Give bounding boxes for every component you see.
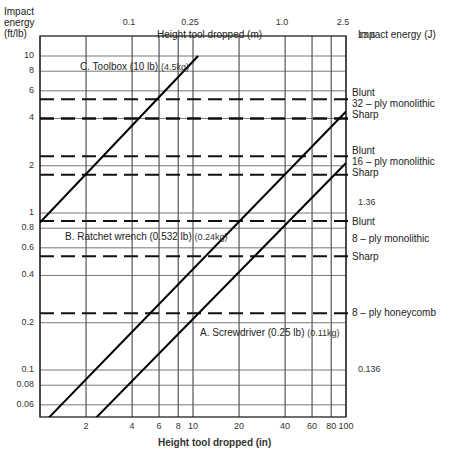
y-axis-title-line3: (ft/lb) <box>4 28 27 39</box>
series-c-label: C. Toolbox (10 lb) (4.5kg) <box>80 61 189 73</box>
y-tick-label: 1 <box>2 207 34 217</box>
x-top-tick-label: 1.0 <box>276 17 289 27</box>
y-tick-label: 0.1 <box>2 364 34 374</box>
x-tick-label: 10 <box>188 421 198 431</box>
y-tick-label: 2 <box>2 160 34 170</box>
series-a-label: A. Screwdriver (0.25 lb) (0.11kg) <box>200 327 340 339</box>
x-tick-label: 80 <box>326 421 336 431</box>
y-tick-label: 10 <box>2 50 34 60</box>
y-tick-label: 0.6 <box>2 242 34 252</box>
series-line <box>92 163 346 421</box>
label-16ply: 16 – ply monolithic <box>352 156 435 167</box>
y-axis-title-line2: energy <box>4 17 35 28</box>
y-tick-label: 6 <box>2 85 34 95</box>
y-tick-label: 0.4 <box>2 269 34 279</box>
x-tick-label: 60 <box>307 421 317 431</box>
series-line <box>45 112 346 422</box>
y-tick-label: 8 <box>2 65 34 75</box>
y-right-tick-label: 0.136 <box>358 364 381 374</box>
series-line <box>40 56 198 222</box>
label-8ply-honeycomb: 8 – ply honeycomb <box>352 307 436 318</box>
x-top-tick-label: 0.1 <box>123 17 136 27</box>
label-32ply-blunt: Blunt <box>352 87 375 98</box>
series-b-label: B. Ratchet wrench (0.532 lb) (0.24kg) <box>65 231 228 243</box>
x-top-tick-label: 0.25 <box>181 17 199 27</box>
label-8ply-sharp: Sharp <box>352 251 379 262</box>
x-tick-label: 8 <box>176 421 181 431</box>
y-tick-label: 0.06 <box>2 399 34 409</box>
label-16ply-blunt: Blunt <box>352 145 375 156</box>
y-axis-title-line1: Impact <box>4 6 34 17</box>
x-top-tick-label: 2.5 <box>337 17 350 27</box>
x-tick-label: 2 <box>84 421 89 431</box>
x-tick-label: 20 <box>234 421 244 431</box>
y-tick-label: 4 <box>2 112 34 122</box>
x-bottom-axis-title: Height tool dropped (in) <box>158 437 271 448</box>
label-8ply-blunt: Blunt <box>352 216 375 227</box>
x-tick-label: 4 <box>130 421 135 431</box>
label-32ply-sharp: Sharp <box>352 109 379 120</box>
x-tick-label: 100 <box>338 421 353 431</box>
y-right-tick-label: 1.36 <box>358 197 376 207</box>
y-tick-label: 0.8 <box>2 222 34 232</box>
y-tick-label: 0.08 <box>2 379 34 389</box>
x-top-axis-title: Height tool dropped (m) <box>157 29 262 40</box>
x-tick-label: 40 <box>280 421 290 431</box>
label-32ply: 32 – ply monolithic <box>352 98 435 109</box>
label-16ply-sharp: Sharp <box>352 167 379 178</box>
y-tick-label: 0.2 <box>2 317 34 327</box>
y-right-tick-label: 13.6 <box>358 30 376 40</box>
label-8ply: 8 – ply monolithic <box>352 233 429 244</box>
x-tick-label: 6 <box>157 421 162 431</box>
